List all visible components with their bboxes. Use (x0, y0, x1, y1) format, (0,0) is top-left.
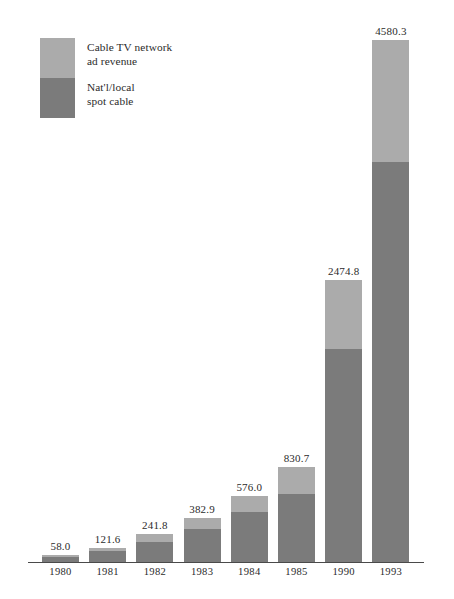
bar-group-1985: 830.7 (278, 445, 315, 562)
bar-1980 (42, 555, 79, 562)
bar-1981 (89, 548, 126, 562)
bar-1990 (325, 280, 362, 562)
x-tick-label-1993: 1993 (380, 566, 402, 577)
bar-group-1983: 382.9 (184, 496, 221, 562)
bar-1993 (372, 40, 409, 562)
bar-group-1993: 4580.3 (372, 18, 409, 562)
x-tick-label-1983: 1983 (191, 566, 213, 577)
x-tick-label-1981: 1981 (96, 566, 118, 577)
bar-value-label-1982: 241.8 (142, 519, 168, 531)
bar-segment-spot-cable-1981 (89, 551, 126, 562)
bar-segment-spot-cable-1990 (325, 349, 362, 562)
bar-1984 (231, 496, 268, 562)
bar-segment-spot-cable-1985 (278, 494, 315, 562)
bar-value-label-1993: 4580.3 (375, 25, 406, 37)
bar-1983 (184, 518, 221, 562)
bar-1985 (278, 467, 315, 562)
bar-group-1982: 241.8 (136, 512, 173, 562)
bar-group-1980: 58.0 (42, 533, 79, 562)
bar-segment-spot-cable-1983 (184, 529, 221, 562)
bar-group-1990: 2474.8 (325, 258, 362, 562)
bar-segment-network-ad-1990 (325, 280, 362, 349)
bar-segment-spot-cable-1993 (372, 162, 409, 562)
bar-segment-network-ad-1980 (42, 555, 79, 556)
plot-area: 58.01980121.61981241.81982382.91983576.0… (0, 0, 454, 599)
bar-group-1981: 121.6 (89, 526, 126, 562)
bar-segment-network-ad-1984 (231, 496, 268, 512)
x-axis-line (28, 562, 424, 563)
x-tick-label-1982: 1982 (144, 566, 166, 577)
x-tick-label-1984: 1984 (238, 566, 260, 577)
bar-segment-spot-cable-1980 (42, 557, 79, 562)
bar-value-label-1983: 382.9 (189, 503, 215, 515)
bar-value-label-1981: 121.6 (95, 533, 121, 545)
bar-1982 (136, 534, 173, 562)
bar-value-label-1980: 58.0 (50, 540, 70, 552)
bar-segment-network-ad-1982 (136, 534, 173, 541)
bar-value-label-1990: 2474.8 (328, 265, 359, 277)
x-tick-label-1990: 1990 (332, 566, 354, 577)
bar-segment-network-ad-1981 (89, 548, 126, 551)
bar-group-1984: 576.0 (231, 474, 268, 562)
bar-segment-network-ad-1983 (184, 518, 221, 529)
x-tick-label-1985: 1985 (285, 566, 307, 577)
bar-value-label-1984: 576.0 (236, 481, 262, 493)
bar-segment-spot-cable-1984 (231, 512, 268, 562)
bar-segment-network-ad-1985 (278, 467, 315, 493)
bar-segment-network-ad-1993 (372, 40, 409, 162)
x-tick-label-1980: 1980 (49, 566, 71, 577)
bar-value-label-1985: 830.7 (284, 452, 310, 464)
stacked-bar-chart: Cable TV network ad revenue Nat'l/local … (0, 0, 454, 599)
bar-segment-spot-cable-1982 (136, 542, 173, 563)
